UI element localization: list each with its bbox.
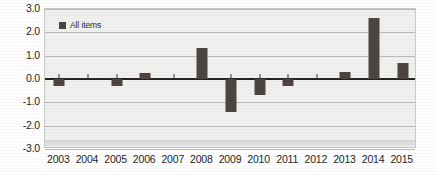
gridline: [45, 126, 415, 127]
x-axis-tick-label: 2009: [219, 154, 242, 165]
bar-2008: [197, 48, 208, 80]
bar-2010: [254, 79, 265, 95]
legend-swatch-all-items: [59, 22, 66, 29]
legend-label-all-items: All items: [70, 21, 101, 30]
y-axis-tick-label: -2.0: [4, 120, 40, 131]
gridline: [45, 9, 415, 10]
y-axis-tick-label: 3.0: [4, 3, 40, 14]
x-axis-tick-label: 2006: [133, 154, 156, 165]
x-axis-tick-label: 2015: [390, 154, 413, 165]
legend: All items: [59, 21, 101, 30]
x-axis-tick-label: 2011: [276, 154, 298, 165]
y-axis-tick-label: -3.0: [4, 143, 40, 154]
bar-2006: [140, 73, 151, 79]
x-axis-tick-label: 2012: [305, 154, 328, 165]
bar-2005: [111, 79, 122, 86]
x-axis-tick-label: 2013: [333, 154, 356, 165]
x-axis-tick-label: 2003: [47, 154, 70, 165]
bar-2013: [340, 72, 351, 79]
bar-chart: 3.02.01.00.0-1.0-2.0-3.0 All items 20032…: [0, 0, 437, 175]
x-axis-tick-mark: [173, 74, 174, 79]
x-axis-tick-label: 2004: [76, 154, 99, 165]
x-axis-tick-mark: [316, 74, 317, 79]
bar-2003: [54, 79, 65, 86]
bar-2011: [283, 79, 294, 86]
bar-2015: [397, 63, 408, 79]
x-axis-tick-label: 2005: [104, 154, 127, 165]
bar-2014: [369, 18, 380, 79]
x-axis-tick-label: 2010: [247, 154, 270, 165]
gridline: [45, 149, 415, 150]
x-axis-tick-mark: [87, 74, 88, 79]
y-axis-tick-label: 2.0: [4, 26, 40, 37]
x-axis-tick-label: 2007: [161, 154, 184, 165]
y-axis-tick-label: -1.0: [4, 96, 40, 107]
plot-area: All items: [44, 8, 416, 148]
bar-2009: [226, 79, 237, 112]
gridline: [45, 32, 415, 33]
x-axis-tick-label: 2014: [362, 154, 385, 165]
x-axis-tick-label: 2008: [190, 154, 213, 165]
y-axis-tick-label: 1.0: [4, 50, 40, 61]
gridline: [45, 56, 415, 57]
y-axis-tick-label: 0.0: [4, 73, 40, 84]
